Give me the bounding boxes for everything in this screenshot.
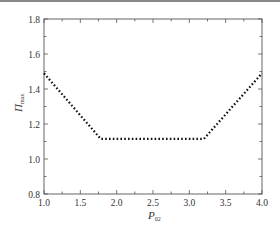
x-tick-label: 3.5 — [220, 198, 232, 208]
x-tick-label: 2.0 — [111, 198, 123, 208]
x-tick-label: 4.0 — [256, 198, 268, 208]
y-tick-label: 0.8 — [28, 190, 40, 200]
x-tick-label: 1.0 — [38, 198, 50, 208]
x-tick-label: 2.5 — [147, 198, 159, 208]
y-tick-labels: 0.81.01.21.41.61.8 — [28, 15, 40, 200]
y-axis-label: Πmax — [12, 94, 25, 113]
y-tick-label: 1.8 — [28, 15, 40, 25]
series-line — [44, 73, 262, 139]
x-tick-label: 1.5 — [74, 198, 86, 208]
chart: 1.01.52.02.53.03.54.0 0.81.01.21.41.61.8… — [0, 0, 280, 233]
y-tick-label: 1.4 — [28, 85, 40, 95]
x-axis-label: P02 — [147, 209, 161, 222]
axis-ticks — [44, 19, 262, 194]
x-tick-label: 3.0 — [183, 198, 195, 208]
y-tick-label: 1.2 — [28, 120, 40, 130]
y-tick-label: 1.0 — [28, 155, 40, 165]
x-tick-labels: 1.01.52.02.53.03.54.0 — [38, 198, 268, 208]
y-tick-label: 1.6 — [28, 50, 40, 60]
plot-frame — [44, 19, 262, 194]
